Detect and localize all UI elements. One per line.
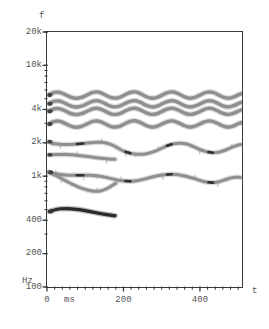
caption-strip xyxy=(0,320,269,329)
x-axis-name-label: t xyxy=(252,287,257,296)
plot-area xyxy=(47,32,242,287)
y-tick-label: 400 xyxy=(26,216,42,225)
y-tick-label: 1k xyxy=(31,172,42,181)
track-line xyxy=(47,151,115,164)
spectrogram-figure: f t Hz ms 20k10k4k2k1k400200100 0200400 xyxy=(0,0,269,329)
x-tick-label: 200 xyxy=(115,296,131,305)
y-tick-label: 100 xyxy=(26,283,42,292)
y-tick-label: 4k xyxy=(31,105,42,114)
x-tick-label: 0 xyxy=(44,296,49,305)
formant-tracks xyxy=(47,32,242,287)
track-line xyxy=(48,209,115,216)
y-tick-label: 10k xyxy=(26,61,42,70)
track-line xyxy=(47,121,241,127)
x-tick-label: 400 xyxy=(192,296,208,305)
y-tick-label: 200 xyxy=(26,249,42,258)
y-axis-tick-labels: 20k10k4k2k1k400200100 xyxy=(0,0,42,329)
y-tick-label: 20k xyxy=(26,28,42,37)
y-tick-label: 2k xyxy=(31,138,42,147)
x-axis-tick-labels: 0200400 xyxy=(0,296,269,310)
track-line xyxy=(47,92,241,98)
